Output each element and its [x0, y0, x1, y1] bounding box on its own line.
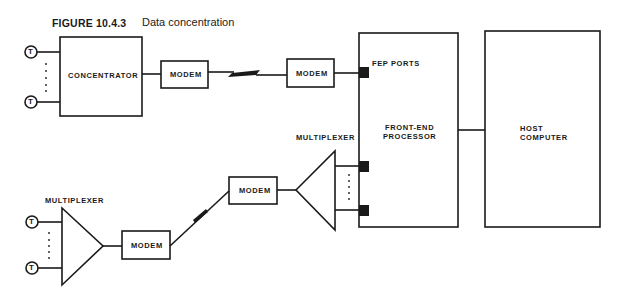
- terminal-label: T: [28, 47, 34, 56]
- concentrator-label: CONCENTRATOR: [68, 71, 138, 80]
- fep-label-line1: FRONT-END: [385, 123, 434, 132]
- mux-right-shape: [296, 151, 335, 230]
- line-break-bottom: [193, 209, 208, 223]
- fep-port-3: [359, 205, 369, 216]
- fep-port-1: [359, 67, 369, 78]
- terminal-label: T: [29, 217, 35, 226]
- diagram-canvas: [0, 0, 621, 300]
- terminal-label: T: [28, 97, 34, 106]
- fep-port-2: [359, 161, 369, 172]
- modem-top-left-label: MODEM: [170, 70, 202, 79]
- mux-right-label: MULTIPLEXER: [296, 133, 355, 142]
- fep-label-line2: PROCESSOR: [383, 132, 436, 141]
- line-break-top: [228, 70, 260, 77]
- mux-left-shape: [62, 208, 103, 285]
- modem-bottom-right-label: MODEM: [239, 186, 271, 195]
- modem-bottom-left-label: MODEM: [131, 241, 163, 250]
- host-label-line1: HOST: [520, 124, 543, 133]
- ellipsis-dots: [45, 63, 350, 259]
- mux-left-label: MULTIPLEXER: [45, 196, 104, 205]
- terminal-label: T: [29, 263, 35, 272]
- host-label-line2: COMPUTER: [520, 133, 568, 142]
- modem-top-right-label: MODEM: [296, 69, 328, 78]
- fep-ports-label: FEP PORTS: [372, 59, 420, 68]
